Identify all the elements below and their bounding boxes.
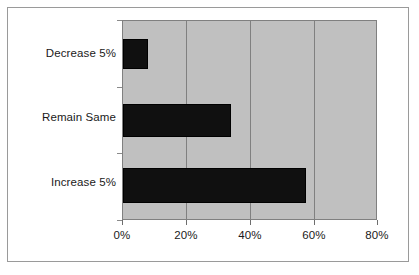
x-axis-label-80: 80% xyxy=(347,229,407,241)
y-axis-label-remain-same: Remain Same xyxy=(10,111,116,123)
y-axis-label-increase: Increase 5% xyxy=(10,176,116,188)
x-axis-label-20: 20% xyxy=(156,229,216,241)
x-axis-tick-60 xyxy=(314,220,315,225)
x-axis-tick-20 xyxy=(186,220,187,225)
x-axis-label-40: 40% xyxy=(220,229,280,241)
x-axis-tick-80 xyxy=(377,220,378,225)
y-axis-label-decrease: Decrease 5% xyxy=(10,47,116,59)
bar-decrease xyxy=(123,39,148,69)
x-axis-label-60: 60% xyxy=(284,229,344,241)
chart-figure: Decrease 5% Remain Same Increase 5% 0% 2… xyxy=(0,0,419,275)
gridline-60 xyxy=(314,21,315,219)
x-axis-label-0: 0% xyxy=(92,229,152,241)
x-axis-tick-40 xyxy=(250,220,251,225)
bar-remain-same xyxy=(123,104,231,137)
x-axis-tick-0 xyxy=(122,220,123,225)
bar-increase xyxy=(123,168,306,203)
plot-area xyxy=(122,20,377,220)
